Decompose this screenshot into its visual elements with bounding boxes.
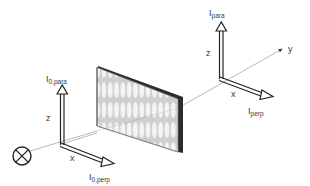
incident-x-label: x	[70, 153, 75, 163]
incident-perp-label: I0,perp	[89, 172, 110, 184]
sample-plate	[97, 66, 183, 153]
diagram-canvas: z x I0,para I0,perp z x y Ipara	[0, 0, 310, 186]
transmitted-z-label: z	[206, 48, 211, 58]
transmitted-para-label: Ipara	[209, 8, 225, 20]
transmitted-para-arrow	[216, 22, 227, 79]
incident-para-label: I0,para	[46, 74, 67, 86]
incident-perp-arrow	[60, 143, 114, 167]
transmitted-perp-label: Iperp	[248, 106, 264, 118]
incident-para-arrow	[57, 85, 68, 145]
transmitted-x-label: x	[231, 89, 236, 99]
transmitted-y-label: y	[288, 44, 293, 54]
transmitted-frame: z x y Ipara Iperp	[206, 8, 293, 118]
incident-z-label: z	[46, 113, 51, 123]
circle-x-icon	[13, 147, 31, 165]
